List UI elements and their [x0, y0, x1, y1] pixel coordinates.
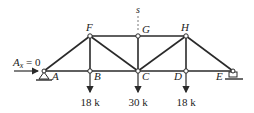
- label-H: H: [180, 21, 190, 33]
- joint-C: [136, 69, 140, 73]
- joint-A: [42, 69, 46, 73]
- label-C: C: [142, 70, 150, 82]
- truss-diagram: s A B C D E F G H Ax = 0: [0, 0, 254, 113]
- section-label: s: [136, 4, 140, 15]
- load-label-D: 18 k: [176, 96, 196, 108]
- joint-B: [88, 69, 92, 73]
- label-F: F: [85, 21, 93, 33]
- joint-E: [231, 69, 235, 73]
- truss-members: [44, 36, 233, 71]
- joint-F: [88, 34, 92, 38]
- label-G: G: [142, 23, 150, 35]
- joint-D: [184, 69, 188, 73]
- member-H-C: [138, 36, 186, 71]
- reaction-label-Ax: Ax = 0: [12, 56, 41, 70]
- load-labels: 18 k 30 k 18 k: [80, 96, 196, 108]
- member-F-C: [90, 36, 138, 71]
- label-E: E: [215, 70, 223, 82]
- load-label-B: 18 k: [80, 96, 100, 108]
- load-label-C: 30 k: [128, 96, 148, 108]
- joint-H: [184, 34, 188, 38]
- label-B: B: [94, 70, 101, 82]
- joint-G: [136, 34, 140, 38]
- member-H-E: [186, 36, 233, 71]
- label-A: A: [51, 70, 59, 82]
- load-arrows: [90, 71, 186, 92]
- member-A-F: [44, 36, 90, 71]
- label-D: D: [173, 70, 182, 82]
